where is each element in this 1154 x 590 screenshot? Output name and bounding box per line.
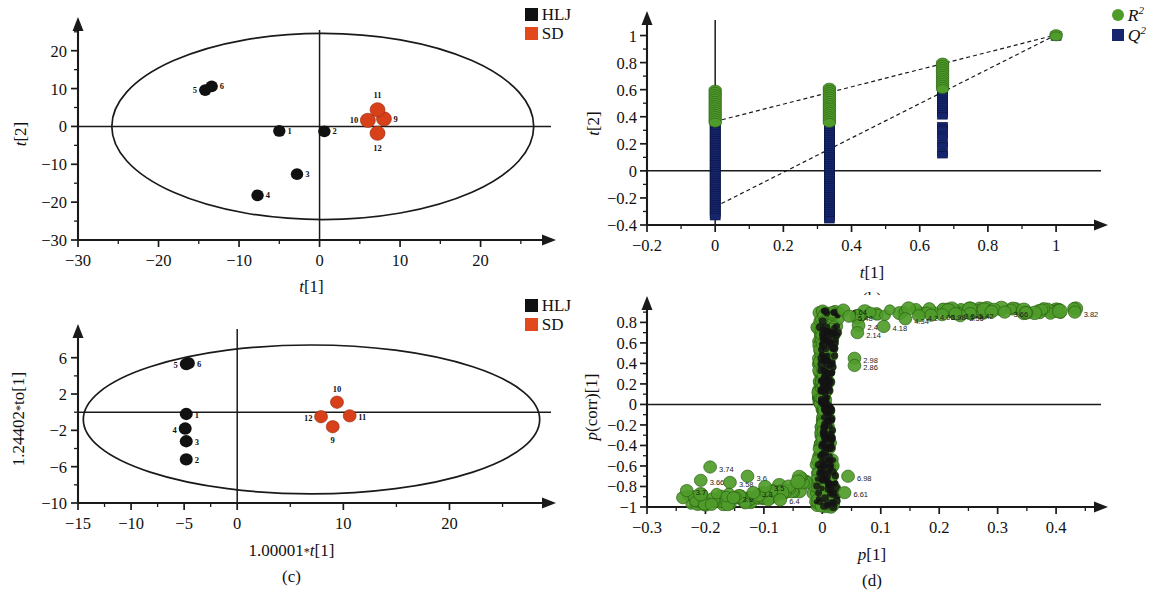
svg-text:0: 0	[711, 236, 719, 255]
panel-letter: (c)	[282, 567, 301, 586]
point-label: 3.74	[719, 465, 734, 474]
data-point-overlay	[815, 476, 820, 481]
data-point	[343, 410, 356, 422]
point-label: 3.82	[1084, 310, 1099, 319]
point-label: 3.66	[710, 478, 725, 487]
point-label: 3	[305, 169, 309, 179]
data-point-overlay	[821, 383, 827, 389]
data-point	[938, 113, 948, 120]
data-point	[180, 408, 193, 420]
svg-text:p[1]: p[1]	[857, 545, 886, 564]
panel-a-pca-score-plot: −30−20−1001020−30−20−1001020123456910111…	[0, 0, 577, 295]
point-label: 11	[358, 412, 366, 422]
data-point	[885, 305, 895, 315]
svg-text:−10: −10	[118, 514, 144, 533]
data-point-overlay	[819, 476, 827, 484]
data-point	[205, 80, 217, 92]
point-label: 2.86	[863, 363, 878, 372]
data-point	[179, 422, 192, 434]
svg-text:t[2]: t[2]	[11, 122, 30, 147]
data-point-overlay	[816, 496, 821, 501]
data-point-overlay	[832, 337, 838, 343]
svg-text:−0.8: −0.8	[607, 477, 637, 496]
data-point-overlay	[819, 458, 825, 464]
labeled-data-point	[842, 470, 855, 482]
svg-text:t[2]: t[2]	[584, 111, 603, 136]
svg-text:−0.2: −0.2	[690, 518, 720, 537]
labeled-data-point	[998, 306, 1011, 318]
panel-letter: (d)	[862, 571, 882, 590]
svg-text:0.1: 0.1	[870, 518, 891, 537]
labeled-data-point	[724, 476, 737, 488]
point-label: 5	[174, 360, 178, 370]
data-point-overlay	[824, 362, 831, 368]
data-point-overlay	[820, 503, 828, 510]
svg-text:−0.6: −0.6	[607, 457, 637, 476]
data-point	[370, 103, 385, 117]
data-point	[709, 118, 722, 127]
point-label: 2.14	[866, 331, 881, 340]
data-point	[326, 421, 339, 433]
svg-text:t[1]: t[1]	[860, 263, 885, 282]
svg-text:−0.2: −0.2	[632, 236, 662, 255]
point-label: 2	[195, 455, 199, 465]
svg-text:0.8: 0.8	[978, 236, 999, 255]
labeled-data-point	[727, 492, 740, 504]
svg-text:−0.1: −0.1	[749, 518, 779, 537]
svg-text:0.6: 0.6	[616, 81, 637, 100]
svg-text:0.8: 0.8	[616, 54, 637, 73]
svg-text:−5: −5	[175, 514, 193, 533]
point-label: 1	[287, 126, 291, 136]
point-label: 5	[193, 85, 197, 95]
data-point	[938, 134, 948, 141]
svg-text:10: 10	[51, 80, 68, 99]
data-point-overlay	[819, 486, 824, 491]
svg-text:−2: −2	[49, 421, 67, 440]
data-point	[823, 118, 836, 127]
point-label: 6	[197, 359, 201, 369]
labeled-data-point	[843, 310, 856, 322]
point-label: 12	[304, 413, 313, 423]
svg-text:−0.2: −0.2	[607, 416, 637, 435]
point-label: 4.34	[914, 317, 929, 326]
svg-text:−20: −20	[41, 193, 67, 212]
svg-text:0.4: 0.4	[1046, 518, 1067, 537]
data-point-overlay	[828, 342, 835, 349]
point-label: 9	[331, 435, 335, 445]
panel-d-s-plot: −0.3−0.2−0.100.10.20.30.4−1−0.8−0.6−0.4−…	[577, 295, 1154, 590]
data-point	[318, 125, 330, 137]
labeled-data-point	[838, 486, 851, 498]
data-point-overlay	[818, 469, 826, 477]
point-label: 4.06	[940, 313, 955, 322]
svg-text:0.2: 0.2	[929, 518, 950, 537]
labeled-data-point	[759, 480, 772, 492]
svg-text:0.6: 0.6	[909, 236, 930, 255]
svg-text:−0.2: −0.2	[607, 189, 637, 208]
labeled-data-point	[747, 486, 760, 498]
svg-text:0.2: 0.2	[616, 375, 637, 394]
labeled-data-point	[694, 474, 707, 486]
labeled-data-point	[1068, 306, 1081, 318]
data-point-overlay	[829, 500, 836, 507]
point-label: 6	[220, 81, 224, 91]
labeled-data-point	[741, 470, 754, 482]
point-label: 12	[373, 143, 382, 153]
point-label: 10	[350, 115, 359, 125]
data-point	[182, 357, 195, 369]
point-label: 3.7	[696, 488, 706, 497]
point-label: 9	[393, 114, 397, 124]
point-label: 4	[266, 190, 271, 200]
svg-text:−0.4: −0.4	[607, 216, 637, 235]
svg-text:−1: −1	[619, 498, 637, 517]
panel-c-opls-da-score-plot: −15−10−501020−10−6−22612345691011121.000…	[0, 295, 577, 590]
data-point-overlay	[831, 325, 837, 331]
data-point	[180, 453, 193, 465]
data-point	[273, 125, 285, 137]
data-point	[705, 498, 718, 510]
svg-text:1.00001*t[1]: 1.00001*t[1]	[249, 541, 335, 560]
data-point-overlay	[820, 332, 826, 338]
data-point	[370, 126, 385, 140]
svg-text:p(corr)[1]: p(corr)[1]	[582, 373, 601, 441]
svg-text:−0.4: −0.4	[607, 436, 637, 455]
data-point-overlay	[823, 407, 831, 415]
